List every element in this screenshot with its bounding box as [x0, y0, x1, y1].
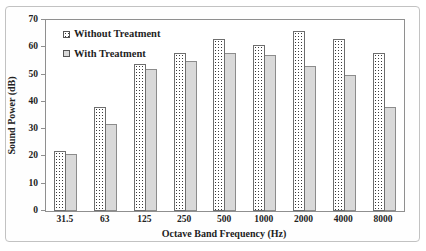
legend-label: With Treatment [74, 49, 146, 60]
bar-with-treatment-2000hz [304, 66, 316, 211]
bar-with-treatment-125hz [145, 69, 157, 211]
y-tick-mark [41, 74, 45, 75]
y-tick-mark [41, 101, 45, 102]
legend: Without Treatment With Treatment [63, 29, 160, 68]
bar-group-2000hz [285, 31, 325, 211]
x-tick-label-2000: 2000 [294, 214, 313, 224]
y-tick-mark [41, 210, 45, 211]
y-tick-label-60: 60 [8, 41, 38, 51]
y-tick-mark [41, 155, 45, 156]
bar-without-treatment-1000hz [253, 45, 265, 211]
x-axis-title: Octave Band Frequency (Hz) [45, 228, 403, 239]
x-tick-label-4000: 4000 [334, 214, 353, 224]
legend-marker-gray-square-icon [63, 50, 70, 57]
bar-group-250hz [165, 53, 205, 211]
bar-group-8000hz [364, 53, 404, 211]
y-tick-label-40: 40 [8, 96, 38, 106]
legend-item-with-treatment: With Treatment [63, 49, 160, 60]
bar-with-treatment-8000hz [384, 107, 396, 211]
y-tick-label-70: 70 [8, 14, 38, 24]
bar-without-treatment-31.5hz [54, 151, 66, 211]
bar-with-treatment-63hz [105, 124, 117, 211]
chart-figure: Sound Power (dB) Without Treatment With … [0, 0, 426, 251]
y-tick-label-30: 30 [8, 123, 38, 133]
legend-label: Without Treatment [74, 29, 160, 40]
bar-group-31.5hz [46, 151, 86, 211]
y-tick-mark [41, 19, 45, 20]
bar-group-4000hz [324, 39, 364, 211]
bar-without-treatment-4000hz [333, 39, 345, 211]
y-tick-label-10: 10 [8, 178, 38, 188]
x-tick-label-31.5: 31.5 [57, 214, 74, 224]
x-tick-label-500: 500 [217, 214, 231, 224]
legend-marker-dotted-square-icon [63, 31, 70, 38]
bar-with-treatment-250hz [185, 61, 197, 211]
x-tick-label-1000: 1000 [254, 214, 273, 224]
legend-item-without-treatment: Without Treatment [63, 29, 160, 40]
bar-without-treatment-63hz [94, 107, 106, 211]
y-tick-label-50: 50 [8, 69, 38, 79]
y-tick-label-20: 20 [8, 150, 38, 160]
bar-without-treatment-8000hz [373, 53, 385, 211]
x-tick-label-63: 63 [100, 214, 110, 224]
x-tick-label-250: 250 [177, 214, 191, 224]
bar-with-treatment-1000hz [264, 55, 276, 211]
bar-with-treatment-500hz [224, 53, 236, 211]
bar-group-1000hz [245, 45, 285, 211]
plot-area: Without Treatment With Treatment [45, 19, 405, 212]
bar-without-treatment-500hz [213, 39, 225, 211]
y-tick-mark [41, 128, 45, 129]
y-tick-mark [41, 46, 45, 47]
bar-group-125hz [126, 64, 166, 211]
bar-with-treatment-4000hz [344, 75, 356, 211]
bar-with-treatment-31.5hz [65, 154, 77, 211]
bar-without-treatment-2000hz [293, 31, 305, 211]
x-tick-label-125: 125 [137, 214, 151, 224]
y-axis-title: Sound Power (dB) [6, 41, 17, 191]
bar-without-treatment-250hz [174, 53, 186, 211]
y-tick-label-0: 0 [8, 205, 38, 215]
x-tick-label-8000: 8000 [374, 214, 393, 224]
y-tick-mark [41, 183, 45, 184]
bar-group-63hz [86, 107, 126, 211]
bar-group-500hz [205, 39, 245, 211]
bar-without-treatment-125hz [134, 64, 146, 211]
